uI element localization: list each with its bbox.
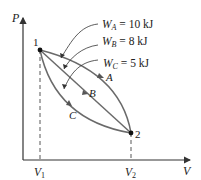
work-c-label: WC = 5 kJ <box>103 57 150 71</box>
v-axis-label: V <box>183 164 192 178</box>
leader-a <box>61 24 98 58</box>
leader-b-arrow-icon <box>63 64 68 69</box>
path-b-label: B <box>89 87 96 99</box>
arrow-a-icon <box>97 73 104 78</box>
work-b-label: WB = 8 kJ <box>102 35 148 49</box>
leader-c <box>64 60 98 89</box>
v1-label: V1 <box>34 166 45 180</box>
state-point-1 <box>38 48 43 53</box>
v2-label: V2 <box>125 166 136 180</box>
p-axis-label: P <box>11 11 20 25</box>
work-a-label: WA = 10 kJ <box>102 18 154 32</box>
path-c-label: C <box>69 109 77 121</box>
point-1-label: 1 <box>33 36 39 48</box>
pv-diagram: P V V1 V2 1 2 A B C WA = 10 kJ WB = 8 kJ… <box>0 0 201 180</box>
state-point-2 <box>129 131 134 136</box>
point-2-label: 2 <box>135 128 141 140</box>
path-a-label: A <box>105 71 113 83</box>
